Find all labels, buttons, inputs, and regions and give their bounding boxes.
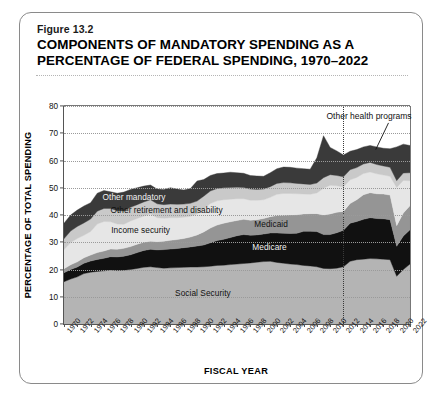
x-tick-mark: [304, 324, 305, 327]
y-tick-mark: [60, 214, 64, 215]
y-tick-label: 0: [53, 320, 58, 329]
x-tick-mark: [237, 324, 238, 327]
y-tick-label: 30: [49, 238, 58, 247]
x-tick-mark: [370, 324, 371, 327]
x-tick-mark: [131, 324, 132, 327]
x-tick-mark: [383, 324, 384, 327]
y-tick-label: 50: [49, 183, 58, 192]
y-tick-label: 20: [49, 265, 58, 274]
y-tick-mark: [60, 296, 64, 297]
y-tick-mark: [60, 133, 64, 134]
gridline: [64, 106, 410, 107]
figure-card: Figure 13.2 COMPONENTS OF MANDATORY SPEN…: [19, 12, 423, 384]
area-label-medicaid: Medicaid: [254, 219, 288, 229]
x-tick-mark: [77, 324, 78, 327]
area-label-other-retirement-and-disability: Other retirement and disability: [110, 205, 222, 215]
x-tick-mark: [264, 324, 265, 327]
y-tick-mark: [60, 105, 64, 106]
area-label-income-security: Income security: [111, 225, 170, 235]
x-tick-mark: [330, 324, 331, 327]
x-tick-mark: [224, 324, 225, 327]
x-tick-label: 2022: [411, 316, 428, 334]
x-tick-mark: [197, 324, 198, 327]
x-tick-mark: [184, 324, 185, 327]
y-tick-label: 70: [49, 129, 58, 138]
plot-area: 0102030405060708019701972197419761978198…: [63, 106, 410, 325]
y-tick-mark: [60, 269, 64, 270]
y-tick-label: 40: [49, 211, 58, 220]
gridline: [64, 270, 410, 271]
y-tick-label: 10: [49, 292, 58, 301]
x-tick-mark: [317, 324, 318, 327]
x-tick-mark: [144, 324, 145, 327]
area-label-social-security: Social Security: [175, 288, 231, 298]
y-tick-label: 80: [49, 102, 58, 111]
x-tick-mark: [157, 324, 158, 327]
y-tick-mark: [60, 160, 64, 161]
area-label-medicare: Medicare: [252, 242, 287, 252]
y-tick-label: 60: [49, 156, 58, 165]
gridline: [64, 242, 410, 243]
area-label-other-mandatory-and-other-health-programs: Other mandatory: [103, 192, 166, 202]
plot-frame-right: [410, 106, 411, 324]
x-tick-mark: [104, 324, 105, 327]
x-tick-mark: [117, 324, 118, 327]
x-tick-mark: [410, 324, 411, 327]
gridline: [64, 188, 410, 189]
chart-container: PERCENTAGE OF TOTAL SPENDING 01020304050…: [20, 13, 424, 385]
y-axis-title: PERCENTAGE OF TOTAL SPENDING: [23, 132, 33, 299]
x-tick-mark: [290, 324, 291, 327]
gridline: [64, 133, 410, 134]
y-tick-mark: [60, 242, 64, 243]
x-tick-mark: [277, 324, 278, 327]
gridline: [64, 297, 410, 298]
y-tick-mark: [60, 187, 64, 188]
x-tick-mark: [250, 324, 251, 327]
x-axis-title: FISCAL YEAR: [63, 366, 409, 376]
x-tick-mark: [397, 324, 398, 327]
x-tick-mark: [210, 324, 211, 327]
gridline: [64, 161, 410, 162]
x-tick-mark: [64, 324, 65, 327]
callout-label-other-health-programs: Other health programs: [327, 111, 412, 121]
x-tick-mark: [91, 324, 92, 327]
x-tick-mark: [357, 324, 358, 327]
